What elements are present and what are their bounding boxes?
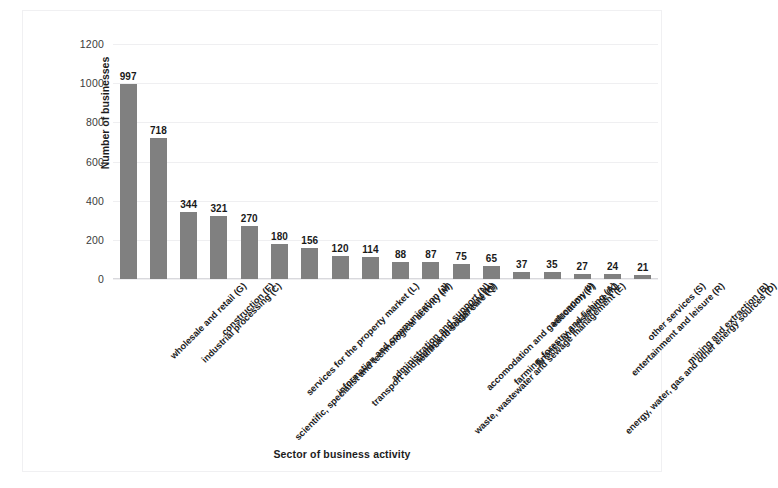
bar bbox=[604, 274, 621, 279]
bar-value-label: 718 bbox=[150, 125, 167, 136]
y-tick-label: 800 bbox=[86, 116, 104, 128]
bar bbox=[422, 262, 439, 279]
bar-item: 270 bbox=[241, 226, 258, 279]
bar-item: 75 bbox=[453, 264, 470, 279]
bar-value-label: 37 bbox=[516, 259, 527, 270]
bar-item: 180 bbox=[271, 244, 288, 279]
bar bbox=[544, 272, 561, 279]
bar bbox=[634, 275, 651, 279]
bar-item: 88 bbox=[392, 262, 409, 279]
bar bbox=[483, 266, 500, 279]
plot-area: 020040060080010001200 997718344321270180… bbox=[113, 44, 658, 279]
y-tick-label: 0 bbox=[98, 273, 104, 285]
bar-value-label: 65 bbox=[486, 253, 497, 264]
y-tick-label: 200 bbox=[86, 234, 104, 246]
bar-value-label: 24 bbox=[607, 261, 618, 272]
bar bbox=[513, 272, 530, 279]
bar-item: 27 bbox=[574, 274, 591, 279]
bar-item: 65 bbox=[483, 266, 500, 279]
bar-item: 21 bbox=[634, 275, 651, 279]
gridline bbox=[113, 83, 658, 84]
category-label: health and social care (Q) bbox=[413, 281, 499, 367]
bar-value-label: 27 bbox=[577, 261, 588, 272]
bar-item: 718 bbox=[150, 138, 167, 279]
category-label: construction (F) bbox=[219, 281, 276, 338]
bar-item: 87 bbox=[422, 262, 439, 279]
y-tick-label: 400 bbox=[86, 195, 104, 207]
gridline bbox=[113, 122, 658, 123]
bar-item: 114 bbox=[362, 257, 379, 279]
bar-value-label: 114 bbox=[362, 244, 378, 255]
category-label: entertainment and leisure (R) bbox=[630, 281, 727, 378]
gridline bbox=[113, 279, 658, 280]
bar bbox=[180, 212, 197, 279]
bar-value-label: 75 bbox=[456, 251, 467, 262]
bar-item: 120 bbox=[332, 256, 349, 280]
bar-value-label: 120 bbox=[332, 243, 349, 254]
bar-item: 24 bbox=[604, 274, 621, 279]
bar-item: 37 bbox=[513, 272, 530, 279]
bar-item: 997 bbox=[120, 84, 137, 279]
bar-value-label: 344 bbox=[180, 199, 197, 210]
chart-container: Number of businesses 0200400600800100012… bbox=[22, 10, 662, 472]
bar-value-label: 88 bbox=[395, 249, 406, 260]
y-tick-label: 1200 bbox=[80, 38, 104, 50]
bar bbox=[392, 262, 409, 279]
bar bbox=[332, 256, 349, 280]
bar-value-label: 321 bbox=[210, 203, 227, 214]
bar-value-label: 997 bbox=[120, 71, 137, 82]
gridline bbox=[113, 44, 658, 45]
y-tick-label: 600 bbox=[86, 156, 104, 168]
bar bbox=[271, 244, 288, 279]
bar-item: 321 bbox=[210, 216, 227, 279]
bar-value-label: 21 bbox=[637, 262, 648, 273]
bar bbox=[301, 248, 318, 279]
y-axis-title: Number of businesses bbox=[99, 57, 111, 170]
x-axis-category-labels: wholesale and retail (G)industrial proce… bbox=[113, 281, 658, 441]
x-axis-title: Sector of business activity bbox=[23, 448, 661, 460]
bar bbox=[453, 264, 470, 279]
bar-value-label: 87 bbox=[425, 249, 436, 260]
bar bbox=[362, 257, 379, 279]
bar bbox=[150, 138, 167, 279]
bar-value-label: 180 bbox=[271, 231, 288, 242]
bar bbox=[210, 216, 227, 279]
bar bbox=[241, 226, 258, 279]
bar-item: 344 bbox=[180, 212, 197, 279]
bar-value-label: 270 bbox=[241, 213, 258, 224]
bar-item: 35 bbox=[544, 272, 561, 279]
gridline bbox=[113, 162, 658, 163]
bar bbox=[120, 84, 137, 279]
bar-value-label: 156 bbox=[301, 235, 318, 246]
bar-item: 156 bbox=[301, 248, 318, 279]
bar bbox=[574, 274, 591, 279]
bar-value-label: 35 bbox=[546, 259, 557, 270]
y-tick-label: 1000 bbox=[80, 77, 104, 89]
